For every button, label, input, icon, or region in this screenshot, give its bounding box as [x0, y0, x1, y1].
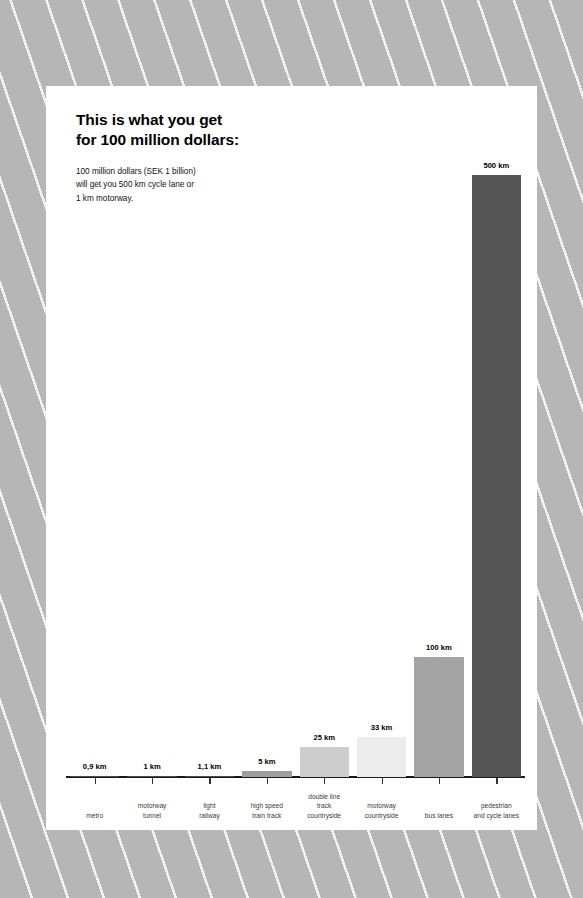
category-label: bus lanes	[410, 811, 467, 820]
bar-value-label: 500 km	[468, 161, 525, 170]
axis-tick	[95, 778, 96, 784]
category-label: pedestrian and cycle lanes	[468, 801, 525, 820]
category-label: motorway countryside	[353, 801, 410, 820]
category-label: high speed train track	[238, 801, 295, 820]
category-label: metro	[66, 811, 123, 820]
bar-value-label: 100 km	[410, 643, 467, 652]
bar[interactable]	[70, 776, 119, 777]
bar[interactable]	[127, 776, 176, 777]
axis-tick	[209, 778, 210, 784]
axis-tick	[496, 778, 497, 784]
axis-tick	[439, 778, 440, 784]
bar[interactable]	[300, 747, 349, 777]
category-label: double line track countryside	[296, 792, 353, 820]
axis-tick	[267, 778, 268, 784]
bar-value-label: 25 km	[296, 733, 353, 742]
axis-tick	[382, 778, 383, 784]
bar-value-label: 1 km	[123, 762, 180, 771]
bar[interactable]	[242, 771, 291, 777]
bar-value-label: 1,1 km	[181, 762, 238, 771]
bar[interactable]	[185, 776, 234, 777]
infographic-card: This is what you get for 100 million dol…	[46, 86, 537, 830]
bar-value-label: 5 km	[238, 757, 295, 766]
bar[interactable]	[357, 737, 406, 777]
category-label: light railway	[181, 801, 238, 820]
bar-chart: 0,9 kmmetro1 kmmotorway tunnel1,1 kmligh…	[46, 86, 537, 830]
axis-tick	[152, 778, 153, 784]
category-label: motorway tunnel	[123, 801, 180, 820]
bar-value-label: 0,9 km	[66, 762, 123, 771]
axis-tick	[324, 778, 325, 784]
bar[interactable]	[414, 657, 463, 777]
bar-value-label: 33 km	[353, 723, 410, 732]
bar[interactable]	[472, 175, 521, 777]
